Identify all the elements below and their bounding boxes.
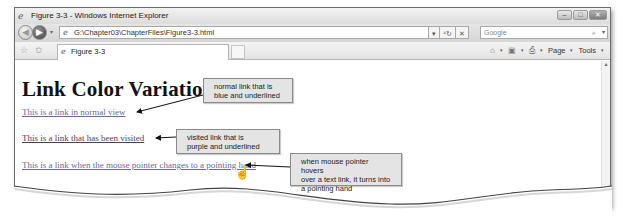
address-bar[interactable]: ℯ G:\Chapter03\ChapterFiles\Figure3-3.ht…	[59, 26, 429, 39]
ie-logo-icon: ℯ	[18, 11, 23, 21]
forward-button[interactable]: ▶	[32, 25, 47, 40]
feeds-icon[interactable]: ▣	[508, 45, 516, 56]
tab-figure-3-3[interactable]: ℯ Figure 3-3	[57, 44, 229, 60]
print-icon[interactable]: ⎙	[529, 45, 535, 56]
new-tab-button[interactable]	[231, 45, 245, 59]
search-placeholder: Google	[484, 29, 507, 36]
title-bar: ℯ Figure 3-3 - Windows Internet Explorer…	[15, 8, 610, 24]
favorites-star-icon[interactable]: ☆	[20, 45, 28, 55]
tab-label: Figure 3-3	[71, 47, 105, 56]
back-button[interactable]: ◀	[18, 25, 33, 40]
search-dropdown-icon[interactable]: ▾	[602, 27, 605, 38]
search-input[interactable]: Google ⌕ ▾	[480, 26, 608, 39]
recent-pages-dropdown-icon[interactable]: ▾	[50, 28, 53, 35]
tools-dropdown-icon[interactable]: ▾	[601, 45, 604, 56]
address-dropdown-icon[interactable]: ▾	[429, 26, 440, 39]
stop-icon[interactable]: ✕	[456, 26, 469, 39]
navigation-bar: ◀ ▶ ▾ ℯ G:\Chapter03\ChapterFiles\Figure…	[15, 24, 610, 42]
page-menu[interactable]: Page	[548, 45, 566, 56]
browser-window: ℯ Figure 3-3 - Windows Internet Explorer…	[14, 7, 611, 207]
address-text: G:\Chapter03\ChapterFiles\Figure3-3.html	[74, 28, 214, 37]
torn-page-edge	[10, 180, 620, 222]
close-button[interactable]: ✕	[589, 10, 607, 20]
tools-menu[interactable]: Tools	[578, 45, 596, 56]
scroll-up-icon[interactable]: ▲	[602, 61, 610, 67]
command-bar: ⌂ ▾ ▣ ▾ ⎙ ▾ Page ▾ Tools ▾	[490, 45, 604, 56]
minimize-button[interactable]: –	[557, 10, 572, 20]
add-favorites-icon[interactable]: ✩	[35, 45, 43, 55]
feeds-dropdown-icon[interactable]: ▾	[521, 45, 524, 56]
home-dropdown-icon[interactable]: ▾	[500, 45, 503, 56]
window-controls: – □ ✕	[557, 10, 607, 20]
tab-bar: ☆ ✩ ℯ Figure 3-3 ⌂ ▾ ▣ ▾ ⎙ ▾ Page ▾ Tool…	[15, 42, 610, 60]
address-actions: ▾ ⁴↻ ✕	[429, 26, 469, 39]
tab-page-icon: ℯ	[61, 45, 66, 59]
window-title: Figure 3-3 - Windows Internet Explorer	[31, 11, 168, 20]
home-icon[interactable]: ⌂	[490, 45, 495, 56]
maximize-button[interactable]: □	[573, 10, 588, 20]
print-dropdown-icon[interactable]: ▾	[540, 45, 543, 56]
page-icon: ℯ	[63, 27, 68, 38]
page-dropdown-icon[interactable]: ▾	[570, 45, 573, 56]
refresh-icon[interactable]: ⁴↻	[440, 26, 456, 39]
search-icon[interactable]: ⌕	[592, 27, 596, 38]
